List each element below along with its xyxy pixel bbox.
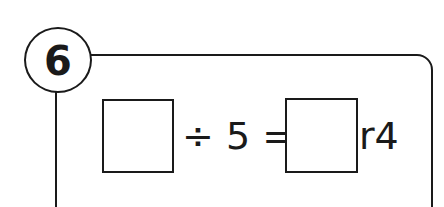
division-operator-text: ÷ 5 =: [182, 117, 294, 155]
dividend-answer-box[interactable]: [102, 99, 174, 173]
question-number: 6: [44, 41, 72, 81]
quotient-answer-box[interactable]: [285, 98, 358, 173]
question-number-badge: 6: [24, 27, 92, 93]
remainder-text: r4: [359, 117, 399, 155]
